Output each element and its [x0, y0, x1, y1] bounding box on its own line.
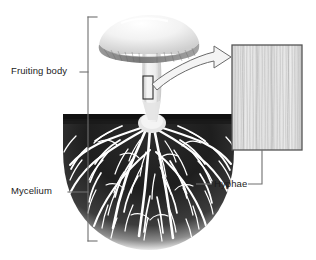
label-fruiting-body: Fruiting body	[11, 65, 67, 76]
label-mycelium: Mycelium	[11, 185, 52, 196]
fungus-illustration	[0, 0, 316, 260]
hyphae-leader-right	[248, 150, 262, 184]
fungus-diagram: Fruiting body Mycelium Hyphae	[0, 0, 316, 260]
hyphae-inset-panel	[232, 45, 302, 150]
label-hyphae: Hyphae	[214, 178, 247, 189]
